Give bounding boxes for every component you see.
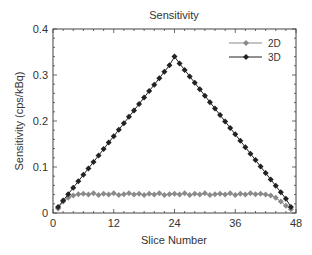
legend-label-3D: 3D: [268, 52, 281, 63]
marker-2D: [136, 191, 142, 197]
sensitivity-chart: Sensitivity 01224364800.10.20.30.4 2D3D …: [0, 0, 312, 255]
marker-2D: [106, 192, 112, 198]
marker-2D: [151, 192, 157, 198]
marker-2D: [212, 191, 218, 197]
marker-2D: [242, 192, 248, 198]
marker-2D: [131, 192, 137, 198]
marker-2D: [172, 191, 178, 197]
x-tick-label: 36: [229, 217, 241, 229]
legend: 2D3D: [229, 38, 281, 63]
y-tick-label: 0.2: [33, 115, 48, 127]
data-series: [55, 54, 294, 213]
marker-2D: [197, 192, 203, 198]
x-tick-label: 48: [290, 217, 302, 229]
marker-2D: [111, 190, 117, 196]
legend-marker-3D: [243, 54, 249, 60]
x-tick-label: 12: [108, 217, 120, 229]
legend-label-2D: 2D: [268, 38, 281, 49]
y-tick-label: 0: [42, 207, 48, 219]
marker-2D: [187, 192, 193, 198]
marker-2D: [253, 191, 259, 197]
marker-2D: [192, 191, 198, 197]
marker-2D: [268, 193, 274, 199]
marker-2D: [75, 191, 81, 197]
marker-2D: [222, 192, 228, 198]
x-axis-label: Slice Number: [141, 234, 207, 246]
marker-2D: [156, 190, 162, 196]
x-tick-label: 24: [168, 217, 180, 229]
marker-2D: [232, 192, 238, 198]
y-tick-label: 0.3: [33, 69, 48, 81]
marker-2D: [70, 193, 76, 199]
marker-2D: [217, 191, 223, 197]
marker-2D: [96, 192, 102, 198]
marker-2D: [85, 192, 91, 198]
marker-2D: [207, 192, 213, 198]
marker-2D: [101, 191, 107, 197]
marker-2D: [161, 192, 167, 198]
marker-2D: [126, 190, 132, 196]
marker-2D: [116, 192, 122, 198]
series-line-3D: [58, 57, 291, 207]
chart-title: Sensitivity: [149, 9, 199, 21]
marker-2D: [141, 192, 147, 198]
marker-2D: [182, 190, 188, 196]
marker-2D: [177, 192, 183, 198]
marker-2D: [258, 191, 264, 197]
marker-2D: [237, 191, 243, 197]
marker-2D: [263, 192, 269, 198]
marker-2D: [146, 191, 152, 197]
legend-marker-2D: [243, 40, 249, 46]
marker-2D: [121, 191, 127, 197]
marker-2D: [227, 190, 233, 196]
marker-2D: [202, 190, 208, 196]
marker-2D: [91, 190, 97, 196]
y-tick-label: 0.4: [33, 23, 48, 35]
x-tick-label: 0: [50, 217, 56, 229]
marker-2D: [166, 191, 172, 197]
y-axis-label: Sensitivity (cps/kBq): [13, 71, 25, 170]
marker-2D: [80, 191, 86, 197]
marker-2D: [247, 190, 253, 196]
y-tick-label: 0.1: [33, 161, 48, 173]
